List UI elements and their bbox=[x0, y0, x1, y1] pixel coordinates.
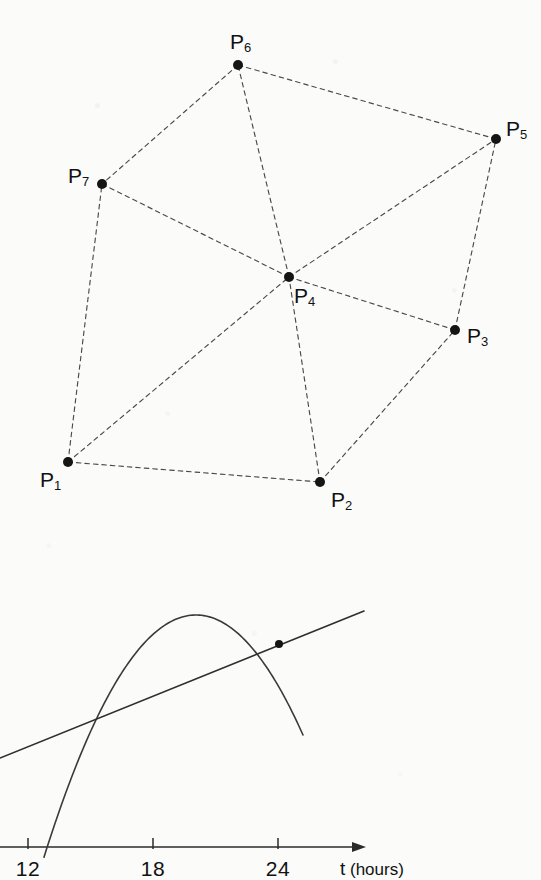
x-axis-unit: (hours) bbox=[345, 860, 404, 879]
tangent-line bbox=[0, 611, 364, 758]
time-curve-chart bbox=[0, 0, 541, 880]
x-axis-label: t (hours) bbox=[340, 859, 404, 878]
x-axis-tick-label-18: 18 bbox=[133, 858, 173, 879]
x-axis-tick-label-24: 24 bbox=[258, 858, 298, 879]
x-axis-tick-label-12: 12 bbox=[8, 858, 48, 879]
figure-page: P1P2P3P4P5P6P7 121824t (hours) bbox=[0, 0, 541, 880]
point-on-line[interactable] bbox=[275, 640, 283, 648]
chart-canvas bbox=[0, 0, 541, 880]
x-axis-arrow-icon bbox=[352, 842, 366, 852]
